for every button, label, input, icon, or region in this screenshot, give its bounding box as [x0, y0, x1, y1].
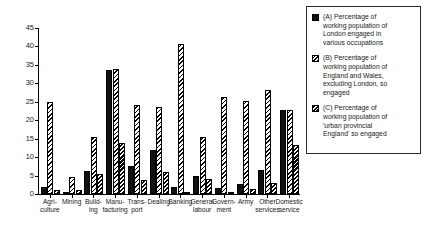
x-axis-category-labels: Agri- cultureMiningBuild- ingManu- factu…: [39, 198, 300, 228]
legend-label: (A) Percentage of working population of …: [323, 13, 387, 47]
bar-B-army: [243, 101, 249, 194]
bar-C-domesticservice: [293, 145, 299, 194]
legend-entry-a: (A) Percentage of working population of …: [312, 13, 416, 47]
y-axis-tick-label: 40: [26, 43, 34, 51]
bar-A-banking: [171, 187, 177, 194]
bar-B-domesticservice: [287, 110, 293, 194]
bar-C-government: [228, 192, 234, 194]
bar-C-agriculture: [54, 190, 60, 194]
bar-A-army: [237, 184, 243, 194]
bar-C-generallabour: [206, 179, 212, 194]
bar-A-otherservices: [258, 170, 264, 194]
chart-legend: (A) Percentage of working population of …: [306, 6, 421, 154]
bar-A-agriculture: [41, 187, 47, 194]
bar-group: [280, 28, 299, 194]
bar-C-manufacturing: [119, 143, 125, 194]
bar-group: [84, 28, 103, 194]
bar-B-mining: [69, 177, 75, 194]
legend-label: (C) Percentage of working population of …: [323, 104, 387, 138]
bar-group: [193, 28, 212, 194]
bar-C-dealing: [163, 172, 169, 194]
bar-A-generallabour: [193, 176, 199, 194]
bar-chart-figure: 051015202530354045 Agri- cultureMiningBu…: [0, 0, 425, 232]
bar-A-dealing: [150, 150, 156, 194]
bar-group: [150, 28, 169, 194]
legend-entry-c: (C) Percentage of working population of …: [312, 104, 416, 138]
legend-entry-b: (B) Percentage of working population of …: [312, 54, 416, 97]
bar-B-manufacturing: [113, 69, 119, 194]
legend-swatch-c-icon: [312, 105, 319, 112]
bar-C-mining: [76, 190, 82, 194]
y-axis-tick-label: 20: [26, 116, 34, 124]
bar-group: [106, 28, 125, 194]
x-axis-label: Domestic service: [275, 198, 303, 214]
bar-B-government: [221, 97, 227, 194]
bar-B-dealing: [156, 107, 162, 194]
plot-area: 051015202530354045 Agri- cultureMiningBu…: [0, 0, 300, 232]
y-axis-tick-label: 5: [30, 172, 34, 180]
y-axis-tick-label: 45: [26, 24, 34, 32]
y-axis-tick-label: 30: [26, 80, 34, 88]
bar-B-otherservices: [265, 90, 271, 194]
y-axis-tick-label: 0: [30, 190, 34, 198]
y-axis-tick-labels: 051015202530354045: [14, 28, 34, 194]
bar-A-domesticservice: [280, 110, 286, 194]
legend-swatch-a-icon: [312, 14, 319, 21]
bar-C-army: [250, 189, 256, 194]
bar-group: [41, 28, 60, 194]
bar-A-building: [84, 171, 90, 194]
bar-B-banking: [178, 44, 184, 194]
y-axis-tick-label: 35: [26, 61, 34, 69]
bar-group: [258, 28, 277, 194]
bar-C-banking: [184, 192, 190, 194]
bar-C-otherservices: [271, 183, 277, 194]
bar-group: [215, 28, 234, 194]
bar-B-building: [91, 137, 97, 194]
bar-group: [171, 28, 190, 194]
legend-label: (B) Percentage of working population of …: [323, 54, 387, 97]
bar-A-manufacturing: [106, 70, 112, 194]
y-axis-tick-label: 15: [26, 135, 34, 143]
bar-C-building: [97, 174, 103, 194]
bar-B-agriculture: [47, 102, 53, 194]
y-axis-tick-label: 10: [26, 153, 34, 161]
bar-group: [63, 28, 82, 194]
bar-A-government: [215, 188, 221, 194]
bar-group: [128, 28, 147, 194]
bar-C-transport: [141, 180, 147, 194]
x-axis-line: [38, 194, 300, 195]
bar-A-transport: [128, 166, 134, 194]
bar-B-generallabour: [200, 137, 206, 194]
bar-B-transport: [134, 105, 140, 194]
y-axis-tick-label: 25: [26, 98, 34, 106]
bar-groups-container: [39, 28, 300, 194]
legend-swatch-b-icon: [312, 55, 319, 62]
bar-group: [237, 28, 256, 194]
bar-A-mining: [63, 192, 69, 194]
